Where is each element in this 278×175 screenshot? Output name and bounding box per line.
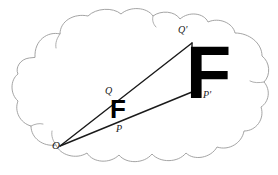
label-q: Q [105,86,112,96]
ray-o-to-qprime [60,43,192,146]
ray-o-to-pprime [60,92,192,146]
label-p-prime: P' [203,90,211,100]
letter-f-small: F [110,96,125,122]
figure-canvas [0,0,278,175]
cloud-outline [12,9,269,162]
label-o: O [52,140,60,151]
projection-rays [60,43,192,146]
label-q-prime: Q' [178,25,187,35]
label-p: P [116,124,122,134]
geometry-figure: F F O Q P Q' P' [0,0,278,175]
